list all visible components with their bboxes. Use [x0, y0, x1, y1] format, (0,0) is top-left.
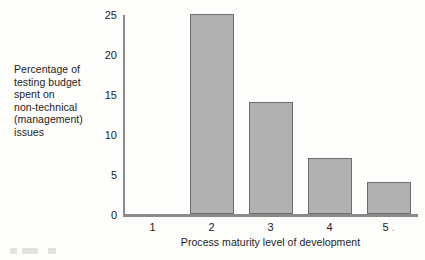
- y-axis-label-line-5: (management): [14, 113, 118, 126]
- y-axis-line: [123, 15, 125, 216]
- y-axis-label-line-1: Percentage of: [14, 63, 118, 76]
- x-axis-title: Process maturity level of development: [123, 236, 418, 248]
- y-tick-label: 15: [105, 90, 117, 101]
- y-tick-label: 20: [105, 50, 117, 61]
- plot-area: 0 5 10 15 20 25 12345 .: [123, 15, 418, 215]
- scan-artifact: [8, 248, 68, 254]
- bar-chart-figure: Percentage of testing budget spent on no…: [0, 0, 425, 260]
- x-tick-label-4: 4: [326, 221, 332, 233]
- x-tick-label-1: 1: [149, 221, 155, 233]
- y-tick-label: 10: [105, 130, 117, 141]
- y-tick-label: 5: [111, 170, 117, 181]
- bar-3: [249, 102, 293, 214]
- y-axis-label-line-6: issues: [14, 126, 118, 139]
- y-tick-label: 25: [105, 10, 117, 21]
- y-tick-label: 0: [111, 210, 117, 221]
- bar-5: [367, 182, 411, 214]
- y-axis-label-line-4: non-technical: [14, 101, 118, 114]
- x-tick-label-3: 3: [267, 221, 273, 233]
- bar-2: [190, 14, 234, 214]
- x-tick-text: 3: [267, 221, 273, 233]
- x-tick-trailing-mark: .: [389, 221, 395, 233]
- x-axis-line: [123, 214, 418, 217]
- x-tick-text: 4: [326, 221, 332, 233]
- y-axis-label: Percentage of testing budget spent on no…: [14, 63, 118, 139]
- y-axis-label-line-3: spent on: [14, 88, 118, 101]
- y-axis-label-line-2: testing budget: [14, 76, 118, 89]
- x-tick-label-2: 2: [208, 221, 214, 233]
- x-tick-text: 1: [149, 221, 155, 233]
- x-tick-label-5: 5 .: [382, 221, 394, 233]
- bar-4: [308, 158, 352, 214]
- x-tick-text: 2: [208, 221, 214, 233]
